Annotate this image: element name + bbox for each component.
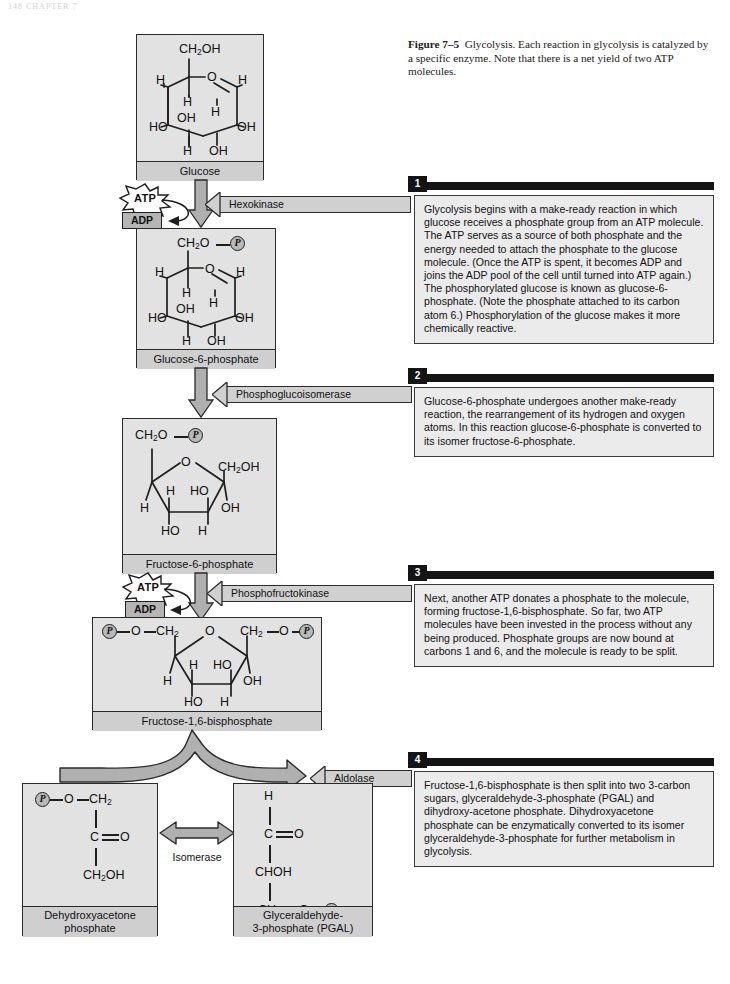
phosphate-circle-dhap: P	[35, 792, 50, 807]
atom-ch2oh-dhap: CH2OH	[83, 869, 125, 885]
atom-o-dhap: O	[64, 793, 74, 806]
figure-label: Figure 7–5	[408, 38, 459, 50]
adp-box-2: ADP	[125, 601, 165, 618]
step-3-number: 3	[408, 565, 427, 581]
molecule-label-pgal: Glyceraldehyde- 3-phosphate (PGAL)	[234, 906, 372, 937]
double-bond-c-o-dhap	[102, 834, 119, 842]
step-4-number: 4	[408, 752, 427, 768]
atom-ch2-dhap: CH2	[89, 793, 112, 809]
atom-o-carbonyl-pgal: O	[294, 828, 304, 841]
f6p-ring	[123, 419, 278, 574]
molecule-label-glucose: Glucose	[137, 161, 263, 181]
enzyme-arrow-hexokinase: Hexokinase	[205, 196, 411, 213]
enzyme-label-phosphoglucoisomerase: Phosphoglucoisomerase	[236, 387, 351, 402]
g6p-ring	[137, 229, 277, 369]
figure-page: 148 CHAPTER 7 Figure 7–5 Glycolysis. Eac…	[0, 0, 730, 984]
phosphofructokinase-arrow-head	[207, 581, 223, 606]
step-4-panel: Fructose-1,6-bisphosphate is then split …	[414, 771, 714, 867]
molecule-label-f6p: Fructose-6-phosphate	[123, 554, 276, 574]
molecule-label-pgal-line1: Glyceraldehyde-	[234, 909, 372, 922]
hexokinase-arrow-head	[205, 192, 221, 217]
bond-p-o-dhap	[50, 799, 63, 801]
atom-h-pgal: H	[264, 790, 273, 803]
atom-c-dhap: C	[90, 831, 99, 844]
bond-ch2-c-dhap	[95, 810, 97, 828]
step-3-bar	[408, 571, 714, 579]
enzyme-arrow-phosphoglucoisomerase: Phosphoglucoisomerase	[212, 386, 412, 403]
step-2-panel: Glucose-6-phosphate undergoes another ma…	[414, 387, 714, 457]
split-arrow-aldolase	[40, 728, 330, 790]
step-3-panel: Next, another ATP donates a phosphate to…	[414, 584, 714, 667]
adp-box-1: ADP	[122, 212, 162, 229]
step-1-number: 1	[408, 176, 427, 192]
step-2-bar	[408, 374, 714, 382]
atom-choh-pgal: CHOH	[255, 866, 292, 879]
step-1-bar	[408, 182, 714, 190]
bond-c-ch2oh-dhap	[95, 848, 97, 866]
atom-c-pgal: C	[264, 828, 273, 841]
page-header: 148 CHAPTER 7	[8, 2, 198, 11]
enzyme-label-phosphofructokinase: Phosphofructokinase	[231, 586, 329, 601]
molecule-box-fructose-6-phosphate: CH2O P O CH2OH H HO H OH HO H	[122, 418, 277, 573]
molecule-label-dhap: Dehydroxyacetone phosphate	[23, 906, 157, 937]
double-bond-c-o-pgal	[276, 831, 293, 839]
enzyme-label-hexokinase: Hexokinase	[229, 197, 284, 212]
step-4-bar	[408, 758, 714, 766]
molecule-box-pgal: H C O CHOH CH2 O P Glyceraldehyde- 3-pho…	[233, 783, 373, 936]
reaction-arrow-2	[188, 368, 214, 418]
step-2-number: 2	[408, 368, 427, 384]
molecule-label-pgal-line2: 3-phosphate (PGAL)	[234, 922, 372, 935]
atom-o-carbonyl-dhap: O	[120, 831, 130, 844]
bond-choh-ch2-pgal	[269, 883, 271, 901]
phosphoglucoisomerase-arrow-head	[212, 382, 228, 407]
enzyme-label-isomerase: Isomerase	[160, 851, 234, 863]
molecule-label-g6p: Glucose-6-phosphate	[137, 349, 275, 369]
molecule-label-dhap-line2: phosphate	[23, 922, 157, 935]
glucose-ring	[137, 35, 265, 181]
molecule-box-glucose: CH2OH H O H H OH H HO OH H OH	[136, 34, 264, 180]
figure-caption: Figure 7–5 Glycolysis. Each reaction in …	[408, 38, 713, 79]
molecule-box-dhap: P O CH2 C O CH2OH Dehydroxyacetone phosp…	[22, 783, 158, 936]
bond-o-ch2-dhap	[77, 799, 89, 801]
bond-c-choh-pgal	[269, 845, 271, 863]
isomerase-double-arrow	[160, 820, 234, 846]
bond-h-c-pgal	[269, 807, 271, 825]
molecule-box-glucose-6-phosphate: CH2O P H O H H OH H HO OH H OH	[136, 228, 276, 368]
molecule-label-dhap-line1: Dehydroxyacetone	[23, 909, 157, 922]
enzyme-arrow-phosphofructokinase: Phosphofructokinase	[207, 585, 412, 602]
molecule-box-fructose-1-6-bisphosphate: P O CH2 O CH2 O P H HO H OH HO H	[92, 617, 322, 730]
step-1-panel: Glycolysis begins with a make-ready reac…	[414, 195, 714, 344]
